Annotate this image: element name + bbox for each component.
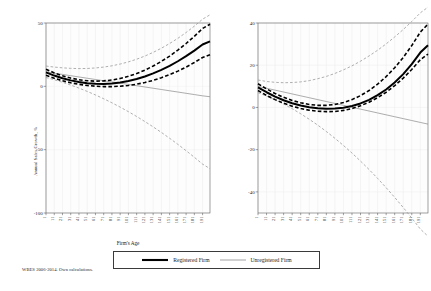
x-axis-tick-label: 91 (116, 217, 121, 222)
y-axis-tick-label: -100 (34, 211, 44, 216)
x-axis-tick-label: 71 (100, 217, 105, 222)
y-axis-tick-label: 0 (252, 105, 255, 110)
sales-growth-plot: 500-50-100111213141516171819110111112113… (0, 6, 216, 246)
x-axis-tick-label: 121 (356, 217, 361, 224)
x-axis-tick-label: 41 (288, 217, 293, 222)
x-axis-tick-label: 101 (339, 217, 344, 224)
x-axis-tick-label: 21 (58, 217, 63, 222)
legend-item-registered: Registered Firm (141, 257, 209, 263)
x-axis-tick-label: 151 (382, 217, 387, 224)
x-axis-tick-label: 141 (373, 217, 378, 224)
x-axis-tick-label: 61 (91, 217, 96, 222)
x-axis-tick-label: 61 (305, 217, 310, 222)
legend-item-unregistered: Unregistered Firm (219, 257, 292, 263)
x-axis-tick-label: 101 (124, 217, 129, 224)
x-axis-tick-label: 121 (141, 217, 146, 224)
x-axis-tick-label: 51 (296, 217, 301, 222)
employment-growth-plot: 40200-20-4011121314151617181911011111211… (216, 6, 431, 246)
legend-label-unregistered: Unregistered Firm (251, 257, 292, 263)
figure-root: 500-50-100111213141516171819110111112113… (0, 0, 431, 291)
y-axis-tick-label: 50 (38, 21, 43, 26)
x-axis-tick-label: 171 (399, 217, 404, 224)
legend-label-registered: Registered Firm (173, 257, 209, 263)
x-axis-tick-label: 141 (157, 217, 162, 224)
y-axis-tick-label: 20 (249, 63, 254, 68)
x-axis-tick-label: 91 (330, 217, 335, 222)
x-axis-tick-label: 131 (149, 217, 154, 224)
x-axis-tick-label: 71 (313, 217, 318, 222)
x-axis-tick-label: 131 (365, 217, 370, 224)
x-axis-tick-label: 41 (75, 217, 80, 222)
x-axis-tick-label: 31 (279, 217, 284, 222)
legend-swatch-unregistered (219, 257, 247, 263)
y-axis-tick-label: -20 (248, 147, 255, 152)
x-axis-tick-label: 181 (407, 217, 412, 224)
y-axis-tick-label: -40 (248, 190, 255, 195)
x-axis-tick-label: 11 (262, 217, 267, 221)
x-axis-tick-label: 1 (42, 217, 47, 219)
x-axis-tick-label: 1 (254, 217, 259, 219)
x-axis-tick-label: 81 (322, 217, 327, 222)
x-axis-tick-label: 111 (347, 217, 352, 223)
x-axis-tick-label: 161 (174, 217, 179, 224)
x-axis-tick-label: 191 (199, 217, 204, 224)
y-axis-label-left: Annual Sales Growth, % (33, 127, 38, 176)
panel-employment-growth: 40200-20-4011121314151617181911011111211… (216, 6, 431, 246)
y-axis-tick-label: 40 (249, 21, 254, 26)
x-axis-tick-label: 51 (83, 217, 88, 222)
legend: Registered Firm Unregistered Firm (113, 251, 320, 269)
x-axis-tick-label: 161 (390, 217, 395, 224)
x-axis-tick-label: 191 (416, 217, 421, 224)
x-axis-tick-label: 171 (182, 217, 187, 224)
y-axis-tick-label: 0 (40, 84, 43, 89)
x-axis-tick-label: 11 (50, 217, 55, 221)
x-axis-tick-label: 151 (166, 217, 171, 224)
x-axis-tick-label: 31 (67, 217, 72, 222)
x-axis-tick-label: 81 (108, 217, 113, 222)
source-footnote: WBES 2006-2014. Own calculations. (22, 267, 93, 272)
panels-container: 500-50-100111213141516171819110111112113… (0, 6, 431, 246)
x-axis-tick-label: 111 (133, 217, 138, 223)
legend-swatch-registered (141, 257, 169, 263)
x-axis-tick-label: 181 (190, 217, 195, 224)
x-axis-tick-label: 21 (271, 217, 276, 222)
x-axis-label-left: Firm's Age (46, 240, 210, 246)
panel-sales-growth: 500-50-100111213141516171819110111112113… (0, 6, 216, 246)
